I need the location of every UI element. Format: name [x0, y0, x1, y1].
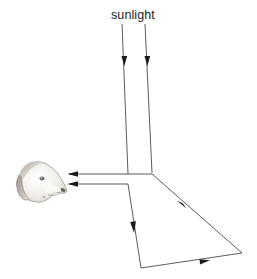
arrow-right-icon: [200, 259, 211, 264]
arrow-down-icon: [145, 56, 151, 66]
ray-down-left-branch: [128, 184, 141, 268]
reflected-ray-upper-to-eye: [68, 171, 153, 177]
incoming-ray-left: [122, 24, 129, 174]
ray-bottom: [141, 253, 242, 268]
sunlight-label: sunlight: [111, 9, 155, 22]
reflected-ray-lower-to-eye: [68, 181, 129, 187]
arrow-down-icon: [122, 56, 128, 66]
dog-cheek-spot: [42, 196, 45, 198]
ray-diagonal-right: [152, 174, 242, 253]
ray-bottom-line: [141, 253, 242, 268]
incoming-ray-right: [145, 24, 153, 173]
incoming-ray-right-line: [145, 24, 152, 173]
diagram-canvas: sunlight: [0, 0, 257, 279]
arrow-down-right-icon: [177, 201, 187, 209]
dog-head-illustration: [11, 157, 71, 211]
ray-diagonal-right-line: [152, 174, 242, 253]
dog-eye: [39, 176, 44, 180]
ray-diagram: [0, 0, 257, 279]
dog-eye-highlight: [41, 177, 43, 178]
incoming-ray-left-line: [122, 24, 128, 174]
